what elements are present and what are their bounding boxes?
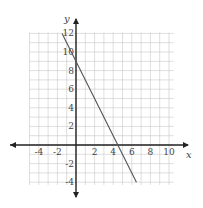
- x-tick-label: -2: [53, 147, 62, 157]
- x-axis-label: x: [186, 149, 192, 160]
- x-tick-label: 6: [129, 147, 135, 157]
- x-axis-right-arrow-icon: [183, 142, 189, 148]
- y-tick-label: 2: [68, 121, 74, 131]
- y-axis-up-arrow-icon: [73, 18, 79, 24]
- x-tick-label: 2: [92, 147, 98, 157]
- x-axis-left-arrow-icon: [10, 142, 16, 148]
- y-tick-label: 4: [68, 103, 74, 113]
- y-tick-label: -2: [65, 159, 74, 169]
- coordinate-plane-chart: -4-2246810-4-224681012 x y: [0, 0, 203, 208]
- y-tick-label: 8: [68, 66, 74, 76]
- x-tick-label: 10: [163, 147, 175, 157]
- x-tick-label: -4: [34, 147, 43, 157]
- y-axis-label: y: [63, 13, 70, 24]
- grid: [30, 32, 174, 185]
- y-tick-label: -4: [65, 177, 74, 187]
- x-tick-label: 4: [110, 147, 116, 157]
- y-tick-label: 6: [68, 84, 74, 94]
- y-axis-down-arrow-icon: [73, 192, 79, 198]
- x-tick-label: 8: [148, 147, 154, 157]
